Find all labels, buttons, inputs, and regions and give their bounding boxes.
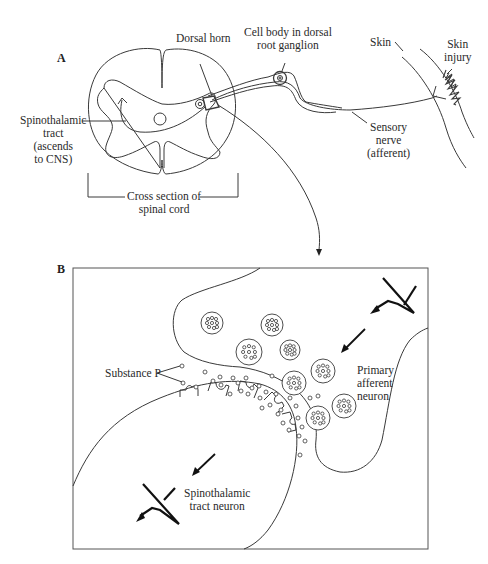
label-skin-injury: Skin injury (444, 38, 471, 64)
action-potential-icon (136, 484, 179, 524)
label-line: tract neuron (184, 500, 250, 513)
label-line: (ascends (20, 140, 86, 153)
label-line: nerve (367, 134, 410, 147)
label-line: Sensory (367, 121, 410, 134)
label-spinothalamic-neuron: Spinothalamic tract neuron (184, 487, 250, 513)
label-line: Spinothalamic (20, 114, 86, 127)
label-sensory-nerve: Sensory nerve (afferent) (367, 121, 410, 160)
label-line: Spinothalamic (184, 487, 250, 500)
label-line: root ganglion (244, 39, 332, 52)
label-line: afferent (357, 377, 394, 390)
label-line: Cell body in dorsal (244, 26, 332, 39)
label-line: tract (20, 127, 86, 140)
label-cell-body: Cell body in dorsal root ganglion (244, 26, 332, 52)
sensory-nerve (208, 63, 446, 123)
label-line: (afferent) (367, 147, 410, 160)
label-line: neuron (357, 390, 394, 403)
label-spinothalamic-tract: Spinothalamic tract (ascends to CNS) (20, 114, 86, 166)
label-line: Primary (357, 364, 394, 377)
label-skin: Skin (370, 36, 391, 49)
label-line: injury (444, 51, 471, 64)
spinal-cord-cross-section (82, 48, 236, 174)
label-line: Skin (444, 38, 471, 51)
arrow-icon (192, 454, 215, 476)
panel-b-letter: B (57, 262, 65, 277)
label-line: to CNS) (20, 153, 86, 166)
label-primary-afferent: Primary afferent neuron (357, 364, 394, 403)
pain-pathway-diagram (0, 0, 488, 564)
action-potential-icon (370, 278, 416, 314)
zoom-connector-arrow (218, 105, 322, 256)
panel-a-letter: A (57, 51, 66, 66)
label-line: Cross section of (127, 190, 201, 203)
label-dorsal-horn: Dorsal horn (176, 32, 231, 45)
label-substance-p: Substance P (105, 367, 161, 380)
arrow-icon (341, 329, 365, 353)
label-line: spinal cord (127, 203, 201, 216)
label-cross-section: Cross section of spinal cord (127, 190, 201, 216)
